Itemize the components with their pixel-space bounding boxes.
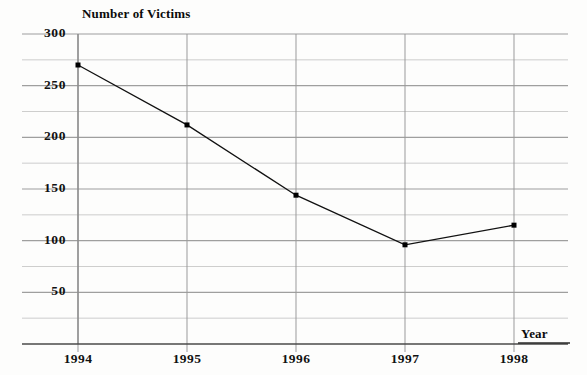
- horizontal-gridlines: [22, 34, 568, 318]
- line-chart: Number of Victims Year 50100150200250300…: [0, 0, 587, 375]
- x-tick-label: 1995: [157, 351, 217, 367]
- chart-plot-area: [0, 0, 587, 375]
- x-tick-label: 1998: [484, 351, 544, 367]
- y-tick-label: 150: [22, 180, 66, 196]
- x-tick-label: 1996: [266, 351, 326, 367]
- y-tick-label: 100: [22, 232, 66, 248]
- y-axis-title: Number of Victims: [82, 6, 191, 22]
- data-point-marker: [294, 193, 299, 198]
- data-point-marker: [185, 122, 190, 127]
- x-tick-label: 1997: [375, 351, 435, 367]
- x-axis-title: Year: [521, 326, 548, 342]
- y-tick-label: 300: [22, 25, 66, 41]
- x-tick-label: 1994: [48, 351, 108, 367]
- y-tick-label: 200: [22, 128, 66, 144]
- data-point-marker: [76, 63, 81, 68]
- y-tick-label: 250: [22, 77, 66, 93]
- data-point-marker: [512, 223, 517, 228]
- y-tick-label: 50: [22, 283, 66, 299]
- data-point-marker: [403, 242, 408, 247]
